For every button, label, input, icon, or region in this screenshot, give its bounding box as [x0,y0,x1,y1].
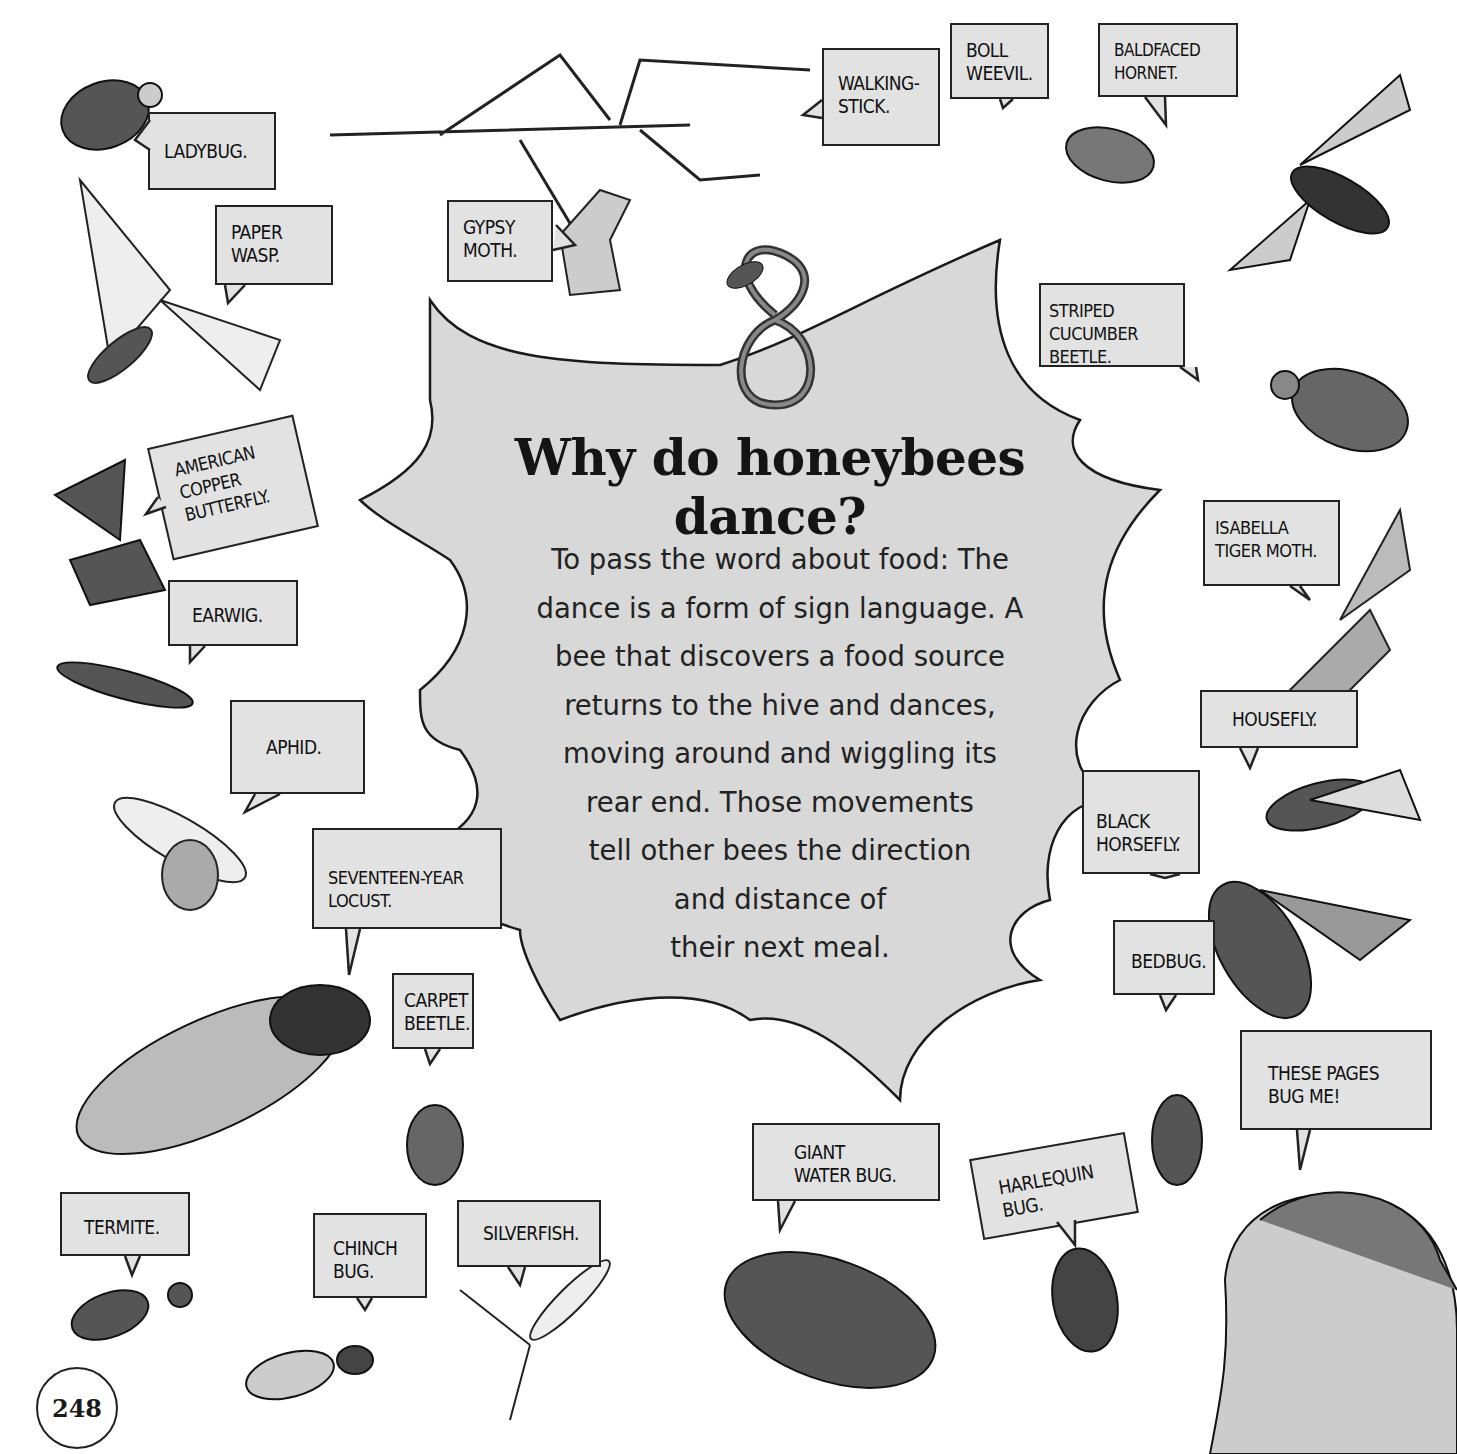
bedbug-icon [1152,1095,1202,1185]
label-boll-weevil: BOLL WEEVIL. [950,23,1049,99]
label-carpet-beetle: CARPET BEETLE. [392,973,474,1049]
label-gypsy-moth: GYPSY MOTH. [447,200,553,282]
label-walking-stick: WALKING- STICK. [822,48,940,146]
label-earwig: EARWIG. [168,580,298,646]
label-seventeen-year-locust: SEVENTEEN-YEAR LOCUST. [312,828,502,929]
boll-weevil-icon [1060,118,1160,192]
silverfish-icon [460,1253,617,1420]
label-chinch-bug: CHINCH BUG. [313,1213,427,1298]
label-termite: TERMITE. [60,1192,190,1256]
label-black-horsefly: BLACK HORSEFLY. [1082,770,1200,874]
black-horsefly-icon [1188,865,1410,1035]
label-ladybug: LADYBUG. [148,112,276,190]
ladybug-icon [51,69,162,162]
baldfaced-hornet-icon [1230,75,1410,270]
striped-cucumber-beetle-icon [1271,354,1419,466]
label-housefly: HOUSEFLY. [1200,690,1358,748]
chinch-bug-icon [241,1342,373,1408]
carpet-beetle-icon [407,1105,463,1185]
book-page: Why do honeybees dance? To pass the word… [0,0,1457,1454]
harlequin-bug-icon [1044,1243,1125,1357]
seventeen-year-locust-icon [55,964,370,1186]
label-bedbug: BEDBUG. [1113,920,1215,995]
label-isabella-tiger-moth: ISABELLA TIGER MOTH. [1203,500,1340,586]
label-giant-water-bug: GIANT WATER BUG. [752,1123,940,1201]
label-paper-wasp: PAPER WASP. [215,205,333,285]
page-number: 248 [36,1367,118,1449]
label-silverfish: SILVERFISH. [457,1200,601,1267]
aphid-icon [104,783,256,910]
giant-water-bug-icon [706,1226,954,1414]
speech-bubble-these-pages: THESE PAGES BUG ME! [1240,1030,1432,1130]
label-striped-cucumber-beetle: STRIPED CUCUMBER BEETLE. [1039,283,1185,367]
termite-icon [65,1281,192,1350]
american-copper-butterfly-icon [55,460,165,605]
label-aphid: APHID. [230,700,365,794]
walking-stick-icon [330,55,810,240]
gypsy-moth-icon [560,190,630,295]
boy-avatar-icon [1210,1192,1457,1454]
housefly-icon [1261,770,1420,841]
earwig-icon [54,653,196,716]
label-baldfaced-hornet: BALDFACED HORNET. [1098,23,1238,97]
